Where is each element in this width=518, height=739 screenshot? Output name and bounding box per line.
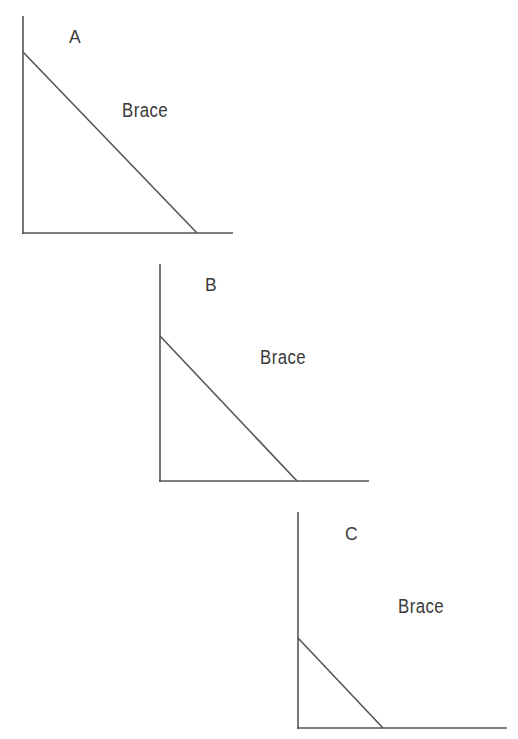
panel-a-letter: A <box>69 27 81 46</box>
panel-c <box>297 512 507 729</box>
panel-c-brace-line <box>298 638 383 728</box>
panel-b <box>159 264 369 482</box>
panel-c-brace-label: Brace <box>398 596 444 616</box>
brace-diagram: A Brace B Brace C Brace <box>0 0 518 739</box>
panel-b-letter: B <box>205 275 217 294</box>
panel-a-brace-label: Brace <box>122 100 168 120</box>
panel-b-brace-label: Brace <box>260 347 306 367</box>
panel-c-letter: C <box>345 524 358 543</box>
panel-a <box>22 16 233 234</box>
panel-a-brace-line <box>23 52 197 233</box>
diagram-lines <box>0 0 518 739</box>
